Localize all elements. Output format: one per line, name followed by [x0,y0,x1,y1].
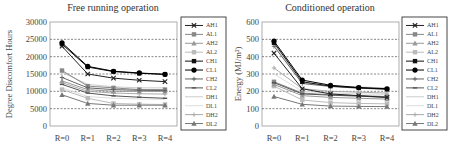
legend-label: DH1 [427,94,439,100]
marker-square-icon [300,98,304,102]
legend-label: AL2 [206,49,217,55]
marker-circle-icon [162,72,167,77]
marker-circle-icon [59,40,64,45]
legend-label: CL2 [206,85,217,91]
marker-circle-icon [191,67,196,72]
figure: Free running operation050001000015000200… [0,0,451,152]
marker-square-icon [60,87,64,91]
legend-label: AH1 [206,22,218,28]
y-tick-label: 30000 [26,17,47,27]
x-tick-label: R=2 [106,133,121,143]
y-tick-label: 200 [246,86,259,96]
marker-circle-icon [300,77,305,82]
chart-title: Conditioned operation [285,2,375,13]
y-tick-label: 400 [246,52,259,62]
y-tick-label: 300 [246,69,259,79]
y-tick-label: 600 [246,17,259,27]
legend-label: AH2 [427,40,439,46]
marker-square-icon [192,50,196,54]
legend-label: AL1 [427,31,438,37]
x-tick-label: R=3 [132,133,147,143]
legend-label: AL1 [206,31,217,37]
x-tick-label: R=0 [55,133,70,143]
legend-label: CL2 [427,85,438,91]
x-tick-label: R=4 [380,133,395,143]
legend-label: DL2 [206,121,217,127]
y-axis-label: Energy (MJ/m²) [233,47,243,102]
y-tick-label: 25000 [26,34,47,44]
legend-label: AH2 [206,40,218,46]
legend-label: CH2 [427,76,438,82]
legend: AH1AL1AH2AL2CH1CL1CH2CL2DH1DL1DH2DL2 [402,17,447,130]
legend-label: CH1 [427,58,438,64]
marker-circle-icon [85,64,90,69]
x-tick-label: R=1 [295,133,310,143]
marker-circle-icon [356,85,361,90]
x-tick-label: R=3 [351,133,366,143]
x-tick-label: R=0 [267,133,282,143]
figure-svg: Free running operation050001000015000200… [0,0,451,152]
x-tick-label: R=2 [323,133,338,143]
y-tick-label: 15000 [26,69,47,79]
legend-label: DH2 [427,112,439,118]
chart-conditioned: Conditioned operation0100200300400500600… [233,2,447,143]
legend-label: AL2 [427,49,438,55]
legend-label: CL1 [206,67,217,73]
y-tick-label: 5000 [30,104,47,114]
chart-title: Free running operation [67,2,159,13]
y-axis-label: Degree Discomfort Hours [4,30,14,118]
legend-label: CH1 [206,58,217,64]
chart-free-running: Free running operation050001000015000200… [4,2,226,143]
y-tick-label: 100 [246,104,259,114]
legend-label: CL1 [427,67,438,73]
marker-square-icon [192,32,196,36]
marker-circle-icon [111,69,116,74]
legend-label: DL1 [206,103,217,109]
marker-circle-icon [412,67,417,72]
marker-square-icon [192,59,196,63]
legend-label: DL2 [427,121,438,127]
legend-label: DH1 [206,94,218,100]
y-tick-label: 20000 [26,52,47,62]
marker-circle-icon [328,83,333,88]
legend-label: DL1 [427,103,438,109]
x-tick-label: R=1 [80,133,95,143]
x-tick-label: R=4 [158,133,173,143]
marker-square-icon [413,50,417,54]
marker-square-icon [60,68,64,72]
y-tick-label: 10000 [26,86,47,96]
marker-circle-icon [137,70,142,75]
y-tick-label: 0 [43,121,47,131]
marker-circle-icon [271,38,276,43]
legend: AH1AL1AH2AL2CH1CL1CH2CL2DH1DL1DH2DL2 [181,17,226,130]
legend-label: CH2 [206,76,217,82]
legend-label: AH1 [427,22,439,28]
marker-circle-icon [384,86,389,91]
marker-square-icon [413,59,417,63]
y-tick-label: 500 [246,34,259,44]
marker-square-icon [413,32,417,36]
legend-label: DH2 [206,112,218,118]
y-tick-label: 0 [255,121,259,131]
marker-square-icon [86,96,90,100]
